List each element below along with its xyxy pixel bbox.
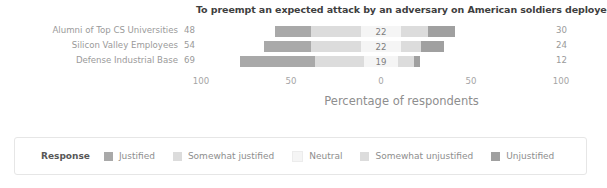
bar-track-silicon-valley: 22: [0, 41, 607, 52]
bar-segment-somewhat-unjustified: [401, 26, 428, 37]
legend: Response Justified Somewhat justified Ne…: [14, 137, 587, 175]
legend-item-label: Neutral: [309, 151, 342, 161]
x-tick-label: 50: [271, 76, 311, 86]
chart-title: To preempt an expected attack by an adve…: [196, 4, 607, 15]
bar-segment-somewhat-justified: [315, 56, 364, 67]
legend-swatch-icon: [360, 152, 369, 161]
bar-center-value: 22: [369, 27, 393, 37]
legend-item-somewhat-unjustified[interactable]: Somewhat unjustified: [360, 151, 473, 161]
x-axis-title: Percentage of respondents: [196, 94, 607, 108]
legend-swatch-icon: [173, 152, 182, 161]
bar-segment-somewhat-unjustified: [401, 41, 421, 52]
bar-segment-somewhat-justified: [311, 26, 361, 37]
x-axis: 100 50 0 50 100: [0, 76, 607, 90]
chart-plot-area: Alumni of Top CS Universities 48 22 30 S…: [0, 24, 607, 69]
legend-item-label: Somewhat unjustified: [375, 151, 473, 161]
legend-item-unjustified[interactable]: Unjustified: [491, 151, 554, 161]
bar-track-defense-industrial-base: 19: [0, 56, 607, 67]
x-tick-label: 100: [181, 76, 221, 86]
legend-swatch-icon: [104, 152, 113, 161]
bar-segment-somewhat-justified: [311, 41, 361, 52]
bar-segment-justified: [240, 56, 316, 67]
row-right-total-silicon-valley: 24: [556, 40, 582, 50]
bar-center-value: 22: [369, 42, 393, 52]
legend-item-label: Unjustified: [506, 151, 554, 161]
bar-segment-justified: [275, 26, 311, 37]
chart-row: Defense Industrial Base 69 19 12: [0, 54, 607, 69]
bar-track-alumni: 22: [0, 26, 607, 37]
legend-item-somewhat-justified[interactable]: Somewhat justified: [173, 151, 274, 161]
legend-swatch-icon: [491, 152, 500, 161]
legend-item-label: Justified: [119, 151, 155, 161]
legend-item-neutral[interactable]: Neutral: [292, 151, 342, 162]
x-tick-label: 50: [451, 76, 491, 86]
legend-item-justified[interactable]: Justified: [104, 151, 155, 161]
x-tick-label: 0: [361, 76, 401, 86]
legend-title: Response: [41, 151, 90, 161]
bar-center-value: 19: [369, 57, 393, 67]
bar-segment-unjustified: [414, 56, 419, 67]
chart-row: Alumni of Top CS Universities 48 22 30: [0, 24, 607, 39]
chart-row: Silicon Valley Employees 54 22 24: [0, 39, 607, 54]
bar-segment-unjustified: [428, 26, 455, 37]
bar-segment-unjustified: [421, 41, 444, 52]
legend-swatch-icon: [292, 151, 303, 162]
x-tick-label: 100: [541, 76, 581, 86]
legend-item-label: Somewhat justified: [188, 151, 274, 161]
bar-segment-somewhat-unjustified: [398, 56, 414, 67]
row-right-total-defense-industrial-base: 12: [556, 55, 582, 65]
bar-segment-justified: [264, 41, 311, 52]
row-right-total-alumni: 30: [556, 25, 582, 35]
